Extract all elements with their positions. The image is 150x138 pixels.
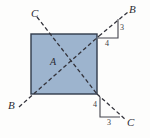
square-plate-cable-diagram: C B B C A 3 4 4 3 [0, 0, 150, 138]
slope-bottom-right-horizontal-value: 3 [107, 119, 111, 127]
square-plate [31, 34, 97, 94]
label-b-bottom-left: B [8, 100, 15, 111]
label-c-top-left: C [31, 8, 38, 19]
slope-top-right-horizontal-value: 4 [105, 40, 109, 48]
label-plate-a: A [50, 57, 56, 67]
label-c-bottom-right: C [127, 117, 134, 128]
label-b-top-right: B [129, 4, 136, 15]
slope-bottom-right-vertical-value: 4 [93, 101, 97, 109]
cable-line-c-extension [97, 94, 126, 120]
slope-top-right-vertical-value: 3 [120, 24, 124, 32]
